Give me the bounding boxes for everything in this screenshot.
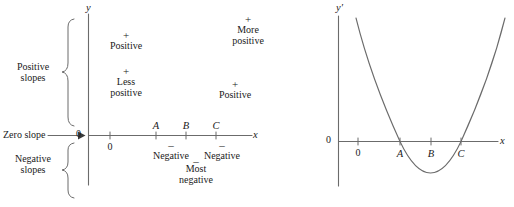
left-point-label-c: C — [212, 120, 219, 131]
annotation-negative-1: Negative — [153, 151, 189, 162]
right-point-label-c: C — [457, 148, 464, 159]
annotation-more-positive: More positive — [232, 25, 264, 46]
brace-negative-slopes — [62, 143, 74, 198]
left-point-label-b: B — [183, 120, 189, 131]
annotation-positive-1-line1: Positive — [110, 41, 142, 52]
side-label-positive-slopes: Positive slopes — [17, 62, 49, 83]
annotation-positive-1: Positive — [110, 41, 142, 52]
right-point-label-a: A — [397, 148, 403, 159]
side-label-positive-slopes-line2: slopes — [17, 73, 49, 84]
side-label-negative-slopes-line1: Negative — [15, 154, 51, 165]
annotation-positive-2-line1: Positive — [219, 90, 251, 101]
annotation-most-negative-line2: negative — [179, 175, 213, 186]
left-y-axis-label: y — [86, 2, 91, 13]
annotation-negative-2: Negative — [204, 151, 240, 162]
side-label-negative-slopes-line2: slopes — [15, 165, 51, 176]
right-origin-label: 0 — [326, 135, 331, 146]
left-point-label-a: A — [153, 120, 159, 131]
annotation-positive-2: Positive — [219, 90, 251, 101]
left-origin-label: 0 — [76, 129, 81, 140]
right-y-axis-label: y′ — [336, 2, 343, 13]
left-x-axis-label: x — [253, 129, 258, 140]
annotation-less-positive-line2: positive — [110, 88, 142, 99]
side-label-positive-slopes-line1: Positive — [17, 62, 49, 73]
annotation-less-positive-line1: Less — [110, 77, 142, 88]
brace-positive-slopes — [62, 19, 74, 126]
annotation-most-negative: Most negative — [179, 164, 213, 185]
side-label-zero-slope: Zero slope — [3, 130, 46, 141]
right-origin-tick-label: 0 — [356, 148, 361, 159]
left-origin-tick-label: 0 — [108, 142, 113, 153]
right-x-axis-label: x — [500, 135, 505, 146]
annotation-most-negative-line1: Most — [179, 164, 213, 175]
right-point-label-b: B — [428, 148, 434, 159]
side-label-negative-slopes: Negative slopes — [15, 154, 51, 175]
annotation-less-positive: Less positive — [110, 77, 142, 98]
annotation-more-positive-line1: More — [232, 25, 264, 36]
annotation-more-positive-line2: positive — [232, 36, 264, 47]
